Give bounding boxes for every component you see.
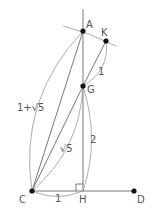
length-CG: √5 [60,143,73,154]
point-K [103,38,108,43]
label-H: H [79,194,87,205]
label-G: G [87,84,95,95]
point-G [80,83,85,88]
geometry-diagram: A K G C H D 1+√5 √5 1 2 1 [0,0,157,221]
point-A [80,28,85,33]
point-D [131,188,136,193]
length-GK: 1 [98,66,104,77]
label-K: K [101,27,108,38]
length-GH: 2 [90,134,96,145]
line-GK [83,41,106,86]
label-D: D [137,194,145,205]
label-C: C [19,194,26,205]
length-CA: 1+√5 [17,102,44,113]
point-C [29,188,34,193]
length-CH: 1 [55,193,61,204]
right-angle-marker [76,184,83,191]
label-A: A [86,19,93,30]
